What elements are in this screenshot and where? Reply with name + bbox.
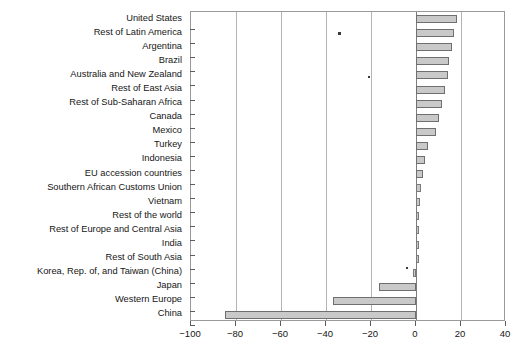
bar — [416, 170, 423, 178]
y-axis-tick — [190, 114, 195, 115]
bar — [413, 269, 416, 277]
y-axis-tick — [190, 198, 195, 199]
category-label: Indonesia — [142, 153, 182, 163]
y-axis-tick — [190, 269, 195, 270]
category-label: Rest of East Asia — [111, 83, 182, 93]
category-label: Japan — [157, 280, 182, 290]
category-label: Brazil — [159, 55, 182, 65]
y-axis-tick — [190, 71, 195, 72]
category-label: India — [162, 238, 182, 248]
category-label: Australia and New Zealand — [70, 69, 182, 79]
y-axis-tick — [190, 240, 195, 241]
bar-chart: United StatesRest of Latin AmericaArgent… — [0, 0, 523, 357]
x-axis-tick — [460, 321, 461, 326]
category-label: Rest of South Asia — [106, 252, 183, 262]
y-axis-tick — [190, 255, 195, 256]
bar — [416, 156, 425, 164]
category-label: Vietnam — [148, 196, 182, 206]
bar — [416, 226, 419, 234]
bar — [416, 184, 421, 192]
category-label: Turkey — [154, 139, 182, 149]
x-axis-tick-label: 0 — [412, 328, 417, 339]
x-axis-tick — [235, 321, 236, 326]
x-axis-tick — [505, 321, 506, 326]
y-axis-tick — [190, 212, 195, 213]
y-axis-tick — [190, 142, 195, 143]
y-axis-tick — [190, 29, 195, 30]
gridline--60 — [281, 12, 282, 320]
y-axis-tick — [190, 226, 195, 227]
artifact-speck-mid — [368, 76, 370, 78]
category-label: Canada — [149, 111, 182, 121]
x-axis-tick-label: −40 — [317, 328, 333, 339]
category-label: Rest of Sub-Saharan Africa — [69, 97, 182, 107]
category-label: Rest of Latin America — [94, 27, 182, 37]
x-axis-tick-label: 40 — [500, 328, 511, 339]
x-axis-tick-label: 20 — [455, 328, 466, 339]
y-axis-ticks — [190, 11, 200, 321]
category-label: China — [158, 308, 182, 318]
y-axis-tick — [190, 311, 195, 312]
x-axis-tick — [190, 321, 191, 326]
bar — [416, 86, 445, 94]
x-axis-tick — [370, 321, 371, 326]
y-axis-tick — [190, 57, 195, 58]
x-axis-tick — [280, 321, 281, 326]
bar — [416, 241, 419, 249]
y-axis-tick — [190, 128, 195, 129]
x-axis: −100−80−60−40−2002040 — [190, 321, 505, 351]
y-axis-tick — [190, 170, 195, 171]
bar — [416, 114, 439, 122]
bar — [416, 100, 442, 108]
bar — [225, 311, 416, 319]
plot-area — [190, 11, 505, 321]
x-axis-tick-label: −60 — [272, 328, 288, 339]
category-label: Korea, Rep. of, and Taiwan (China) — [37, 266, 182, 276]
gridline--20 — [371, 12, 372, 320]
bar — [416, 15, 457, 23]
bar — [416, 255, 419, 263]
y-axis-tick — [190, 85, 195, 86]
x-axis-tick-label: −80 — [227, 328, 243, 339]
gridline-20 — [461, 12, 462, 320]
category-label: Southern African Customs Union — [47, 182, 182, 192]
bar — [416, 71, 448, 79]
bar — [416, 198, 420, 206]
x-axis-tick-label: −20 — [362, 328, 378, 339]
bar — [333, 297, 416, 305]
category-label: Rest of Europe and Central Asia — [49, 224, 182, 234]
category-label: Mexico — [153, 125, 182, 135]
category-label: Argentina — [142, 41, 182, 51]
bar — [416, 43, 452, 51]
category-label: Rest of the world — [112, 210, 182, 220]
y-axis-tick — [190, 184, 195, 185]
bar — [416, 128, 436, 136]
category-label: United States — [126, 13, 182, 23]
bar — [416, 29, 454, 37]
y-axis-tick — [190, 297, 195, 298]
gridline--80 — [236, 12, 237, 320]
bar — [416, 212, 419, 220]
y-axis-tick — [190, 156, 195, 157]
x-axis-tick — [325, 321, 326, 326]
y-axis-tick — [190, 100, 195, 101]
category-label: Western Europe — [115, 294, 182, 304]
bar — [416, 57, 449, 65]
category-axis-labels: United StatesRest of Latin AmericaArgent… — [0, 11, 186, 321]
y-axis-tick — [190, 43, 195, 44]
category-label: EU accession countries — [85, 168, 182, 178]
bar — [416, 142, 428, 150]
artifact-speck-low — [406, 267, 408, 269]
artifact-speck-top — [338, 32, 341, 35]
y-axis-tick — [190, 283, 195, 284]
x-axis-tick — [415, 321, 416, 326]
bar — [379, 283, 416, 291]
gridline--40 — [326, 12, 327, 320]
x-axis-tick-label: −100 — [179, 328, 200, 339]
